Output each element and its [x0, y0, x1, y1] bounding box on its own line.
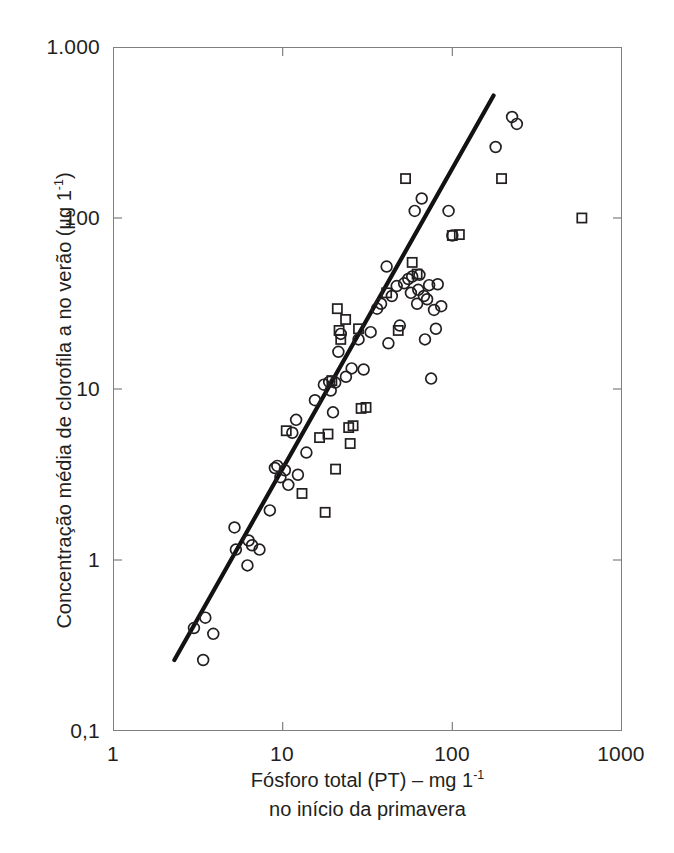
- y-axis-title-text: Concentração média de clorofila a no ver…: [53, 190, 75, 628]
- x-tick-label-1000: 1000: [597, 742, 645, 766]
- x-tick-label-100: 100: [434, 742, 470, 766]
- x-tick-label-10: 10: [270, 742, 294, 766]
- x-tick-label-1: 1: [107, 742, 119, 766]
- x-axis-title-text: Fósforo total (PT) – mg 1: [251, 769, 473, 791]
- y-axis-title-exponent: -1: [52, 179, 66, 190]
- x-axis-title-line1: Fósforo total (PT) – mg 1-1: [113, 766, 622, 795]
- chart-figure: 1.000 100 10 1 0,1 1 10 100 1000 Concent…: [0, 0, 674, 853]
- plot-area-frame: [113, 47, 622, 731]
- y-tick-label-0-1: 0,1: [15, 719, 100, 743]
- x-axis-title-exponent: -1: [473, 768, 484, 782]
- y-axis-title: Concentração média de clorofila a no ver…: [53, 121, 76, 681]
- x-axis-title-line2: no início da primavera: [113, 795, 622, 824]
- y-tick-label-1000: 1.000: [15, 35, 100, 59]
- y-axis-title-suffix: ): [53, 172, 75, 179]
- x-axis-title: Fósforo total (PT) – mg 1-1 no início da…: [113, 766, 622, 824]
